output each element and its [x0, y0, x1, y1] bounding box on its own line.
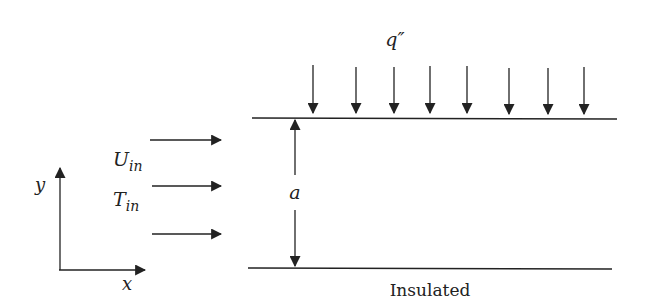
heat-flux-label: q″ [385, 28, 404, 50]
top-plate [252, 118, 617, 119]
inlet-flow-arrows [150, 140, 221, 234]
insulated-label: Insulated [390, 280, 471, 300]
gap-label: a [289, 181, 300, 203]
inlet-velocity-label: Uin [113, 148, 143, 174]
axis-y-label: y [34, 174, 46, 195]
heat-flux-arrows [313, 65, 584, 114]
coordinate-axes [59, 168, 145, 270]
diagram-canvas: q″ a Uin Tin y x Insulated [0, 0, 648, 308]
channel-flow-diagram: q″ a Uin Tin y x Insulated [0, 0, 648, 308]
axis-x-label: x [122, 273, 132, 294]
inlet-temperature-label: Tin [113, 188, 139, 214]
bottom-plate-insulated [248, 268, 612, 269]
